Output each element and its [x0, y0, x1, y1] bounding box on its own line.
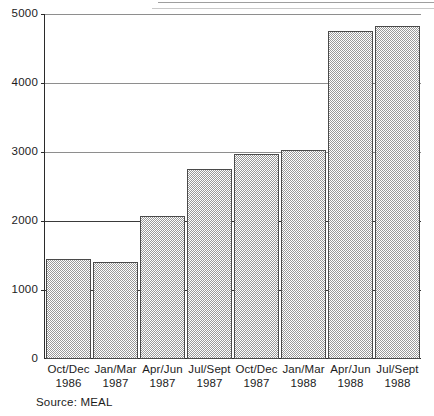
bar — [281, 150, 326, 359]
y-axis-tick-label-2000: 2000 — [0, 214, 38, 226]
bar — [140, 216, 185, 359]
page-edge-artifact-line-secondary — [152, 8, 434, 9]
x-axis-label-year: 1988 — [368, 376, 427, 390]
bar — [93, 262, 138, 359]
y-axis-tick-label-1000: 1000 — [0, 283, 38, 295]
gridline-5000 — [45, 14, 421, 15]
bar — [187, 169, 232, 359]
bar — [234, 154, 279, 359]
page-edge-artifact-line — [158, 2, 434, 3]
x-axis-label-group: Oct/Dec1986Jan/Mar1987Apr/Jun1987Jul/Sep… — [45, 362, 421, 396]
source-note: Source: MEAL — [36, 396, 113, 408]
bar-chart-figure: 500040003000200010000 Oct/Dec1986Jan/Mar… — [0, 0, 434, 416]
x-axis-tick-label: Jul/Sept1988 — [368, 362, 427, 390]
y-axis-tick-label-5000: 5000 — [0, 7, 38, 19]
x-axis-label-period: Jul/Sept — [368, 362, 427, 376]
bar — [46, 259, 91, 359]
bar — [375, 26, 420, 359]
y-axis-line — [44, 14, 45, 359]
bar — [328, 31, 373, 359]
y-axis-tick-label-4000: 4000 — [0, 76, 38, 88]
y-axis-tick-label-0: 0 — [0, 352, 38, 364]
y-axis-tick-label-3000: 3000 — [0, 145, 38, 157]
plot-area — [45, 14, 421, 359]
